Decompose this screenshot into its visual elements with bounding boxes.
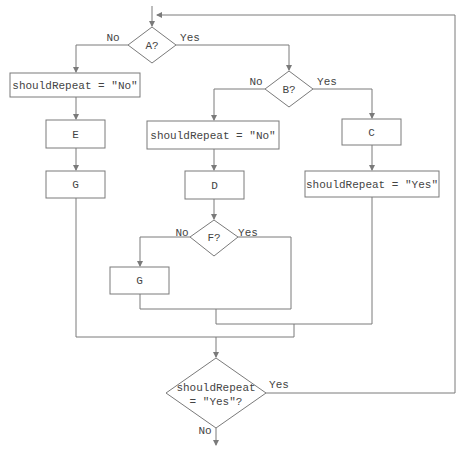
decision-final-line2: = "Yes"?	[190, 396, 243, 408]
process-label: shouldRepeat = "No"	[150, 130, 275, 142]
process-mid-should-repeat-no: shouldRepeat = "No"	[147, 121, 279, 149]
process-d: D	[185, 171, 244, 199]
process-label: G	[72, 179, 79, 191]
process-right-should-repeat-yes: shouldRepeat = "Yes"	[305, 171, 439, 197]
decision-a-yes-label: Yes	[180, 32, 200, 44]
decision-b-yes-label: Yes	[317, 76, 337, 88]
decision-b: B?	[265, 71, 313, 107]
f-no-connector	[140, 237, 190, 266]
f-merge-connector	[140, 294, 291, 309]
process-g-mid: G	[110, 267, 169, 294]
process-label: E	[72, 129, 79, 141]
decision-b-label: B?	[282, 84, 295, 96]
decision-final-yes-label: Yes	[269, 379, 289, 391]
a-merge-connector	[76, 198, 294, 337]
a-yes-connector	[176, 45, 289, 70]
decision-a-label: A?	[145, 40, 158, 52]
decision-final-no-label: No	[198, 425, 211, 437]
b-yes-connector	[313, 89, 372, 118]
decision-f: F?	[190, 220, 238, 256]
process-label: C	[368, 127, 375, 139]
process-label: shouldRepeat = "No"	[12, 80, 137, 92]
f-yes-connector	[238, 237, 291, 309]
a-no-connector	[76, 45, 128, 72]
b-merge-connector	[216, 197, 372, 324]
decision-should-repeat: shouldRepeat = "Yes"?	[166, 358, 266, 428]
process-c: C	[342, 119, 401, 145]
flowchart: A? No Yes shouldRepeat = "No" E G B? No …	[0, 0, 464, 456]
process-left-should-repeat-no: shouldRepeat = "No"	[10, 73, 140, 97]
decision-b-no-label: No	[249, 76, 262, 88]
decision-a-no-label: No	[106, 32, 119, 44]
process-g-left: G	[46, 171, 105, 198]
process-label: D	[211, 180, 218, 192]
process-label: shouldRepeat = "Yes"	[306, 179, 438, 191]
b-no-connector	[214, 89, 265, 120]
process-e: E	[46, 120, 105, 148]
decision-f-label: F?	[207, 232, 220, 244]
decision-a: A?	[128, 27, 176, 63]
process-label: G	[136, 275, 143, 287]
decision-final-line1: shouldRepeat	[176, 382, 255, 394]
